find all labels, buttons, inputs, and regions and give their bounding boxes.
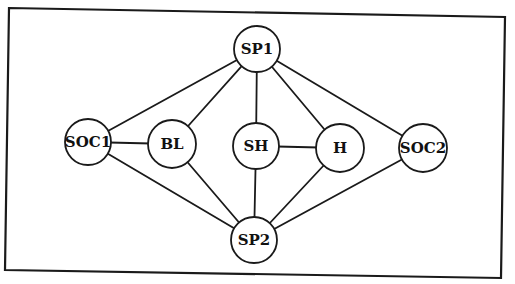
node-sp2: SP2 [231, 217, 277, 263]
node-sp1: SP1 [234, 26, 280, 72]
node-sh: SH [233, 123, 279, 169]
nodes-group: SP1SOC1BLSHHSOC2SP2 [65, 26, 447, 263]
node-soc2: SOC2 [399, 124, 447, 172]
node-label: H [333, 139, 347, 157]
node-soc1: SOC1 [65, 119, 111, 165]
node-label: BL [160, 135, 184, 153]
node-bl: BL [148, 120, 196, 168]
node-h: H [316, 124, 364, 172]
node-label: SP2 [238, 231, 271, 249]
graph-diagram: SP1SOC1BLSHHSOC2SP2 [0, 0, 515, 284]
node-label: SH [243, 137, 268, 155]
node-label: SOC2 [400, 139, 446, 157]
node-label: SP1 [241, 40, 274, 58]
node-label: SOC1 [65, 133, 111, 151]
